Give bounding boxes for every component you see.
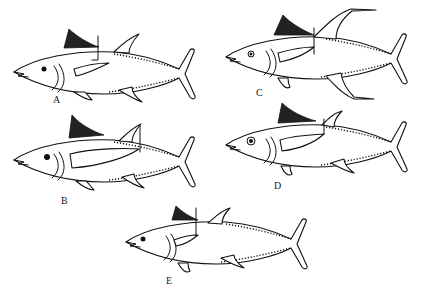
- fish-c: [226, 9, 407, 99]
- fish-b-first-dorsal-fin: [69, 115, 104, 138]
- fish-c-anal-fin: [326, 73, 374, 99]
- fish-e-eye: [141, 237, 146, 242]
- fish-a-second-dorsal-fin: [114, 34, 139, 53]
- fish-d-second-dorsal-fin: [322, 111, 342, 127]
- panel-label-c: C: [256, 87, 263, 98]
- fish-d-first-dorsal-fin: [278, 103, 316, 123]
- panel-label-d: D: [274, 180, 281, 191]
- fish-b-pelvic-fin: [76, 181, 94, 190]
- panel-label-b: B: [61, 195, 68, 206]
- fish-a-eye: [42, 67, 47, 72]
- fish-e: [126, 206, 307, 272]
- fish-a: [14, 29, 195, 102]
- panel-label-e: E: [166, 275, 172, 286]
- panel-label-a: A: [53, 94, 61, 105]
- tuna-figure: A B C D: [0, 0, 421, 301]
- fish-e-first-dorsal-fin: [172, 206, 198, 220]
- fish-c-pelvic-fin: [278, 78, 290, 88]
- fish-b-eye: [44, 154, 50, 160]
- fish-e-pelvic-fin: [178, 263, 190, 272]
- fish-c-second-dorsal-fin: [314, 9, 376, 39]
- fish-c-first-dorsal-fin: [274, 15, 314, 35]
- fish-d-pelvic-fin: [281, 166, 292, 175]
- fish-b-second-dorsal-fin: [119, 124, 141, 142]
- fish-d: [226, 103, 407, 175]
- fish-b: [14, 115, 195, 190]
- fish-a-first-dorsal-fin: [64, 29, 99, 48]
